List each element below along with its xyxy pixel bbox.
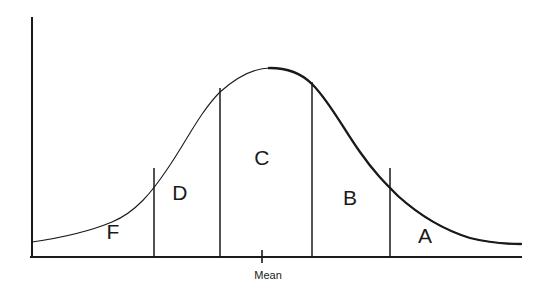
mean-axis-label: Mean — [254, 270, 282, 281]
region-label-c: C — [254, 147, 269, 168]
normal-curve-right-segment — [32, 68, 521, 244]
bell-curve-chart — [0, 0, 543, 296]
region-label-a: A — [418, 225, 432, 246]
normal-curve-left-segment — [32, 68, 521, 244]
region-label-d: D — [172, 182, 187, 203]
region-label-b: B — [343, 187, 357, 208]
region-label-f: F — [106, 221, 119, 242]
bell-curve-figure: F D C B A Mean — [0, 0, 543, 296]
